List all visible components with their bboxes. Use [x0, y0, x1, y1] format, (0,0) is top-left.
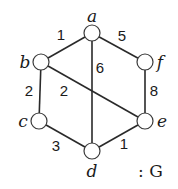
- edge-weight-b-c: 2: [25, 82, 33, 99]
- vertex-e: [137, 113, 153, 129]
- vertex-c: [31, 113, 47, 129]
- edge-weight-a-d: 6: [96, 59, 104, 76]
- edges-layer: [39, 33, 145, 151]
- vertex-f: [137, 54, 153, 70]
- graph-caption: : G: [138, 161, 163, 181]
- edge-a-b: [41, 33, 92, 62]
- vertex-a: [84, 25, 100, 41]
- edge-weight-d-e: 1: [120, 135, 128, 152]
- edge-weight-a-f: 5: [118, 27, 126, 44]
- graph-diagram: 15622831 abcdef : G: [0, 0, 178, 189]
- edge-weight-a-b: 1: [57, 26, 65, 43]
- vertex-label-c: c: [18, 111, 28, 131]
- vertex-d: [84, 143, 100, 159]
- edge-b-c: [39, 62, 41, 121]
- edge-weight-b-e: 2: [60, 82, 68, 99]
- edge-b-e: [41, 62, 145, 121]
- edge-weight-c-d: 3: [52, 137, 60, 154]
- vertex-label-f: f: [155, 52, 166, 72]
- edge-c-d: [39, 121, 92, 151]
- vertex-label-e: e: [157, 111, 167, 131]
- vertex-label-d: d: [87, 161, 98, 181]
- vertex-label-b: b: [20, 52, 31, 72]
- edge-weight-f-e: 8: [150, 82, 158, 99]
- vertex-label-a: a: [87, 6, 97, 26]
- edge-d-e: [92, 121, 145, 151]
- vertex-b: [33, 54, 49, 70]
